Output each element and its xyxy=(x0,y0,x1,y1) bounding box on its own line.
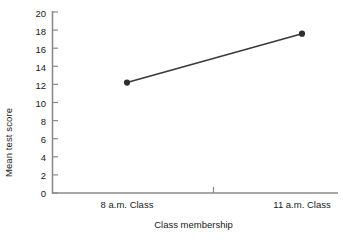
data-point-marker xyxy=(299,31,305,37)
x-tick-label-11am: 11 a.m. Class xyxy=(273,200,330,210)
data-line-series-1 xyxy=(127,34,302,83)
x-tick-label-8am: 8 a.m. Class xyxy=(101,200,154,210)
chart-container: Mean test score 0 2 4 6 8 10 12 14 16 18… xyxy=(0,0,343,241)
x-axis-title-text: Class membership xyxy=(154,219,233,230)
data-point-marker xyxy=(124,80,130,86)
x-axis-title: Class membership xyxy=(0,219,343,230)
